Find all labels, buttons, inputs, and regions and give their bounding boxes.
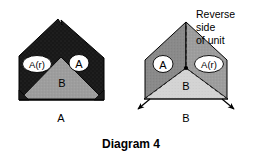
right-unit-label-ar-text: A(r) bbox=[201, 59, 217, 70]
left-unit-base-label: A bbox=[57, 112, 65, 124]
left-unit-group: A(r) A B A bbox=[19, 19, 104, 124]
left-unit-label-ar-text: A(r) bbox=[29, 59, 45, 70]
right-unit-label-b: B bbox=[182, 80, 189, 92]
right-unit-base-label: B bbox=[182, 112, 189, 124]
left-unit-label-ar: A(r) bbox=[23, 56, 52, 73]
diagram-canvas: A(r) A B A bbox=[0, 0, 266, 162]
left-unit-label-b: B bbox=[58, 77, 65, 89]
right-unit-arrow-left bbox=[138, 99, 150, 109]
figure-caption: Diagram 4 bbox=[102, 137, 160, 151]
left-unit-label-a-text: A bbox=[75, 58, 83, 70]
reverse-side-note: Reverse side of unit bbox=[196, 8, 235, 46]
left-unit-label-a: A bbox=[69, 55, 89, 72]
right-unit-label-a: A bbox=[153, 56, 173, 73]
reverse-side-note-line2: side bbox=[196, 21, 215, 33]
right-unit-apex-dot bbox=[184, 66, 188, 70]
reverse-side-note-line3: of unit bbox=[196, 34, 225, 46]
diagram-figure: A(r) A B A bbox=[0, 0, 266, 162]
right-unit-label-a-text: A bbox=[159, 59, 167, 71]
right-unit-label-ar: A(r) bbox=[195, 56, 224, 73]
right-unit-arrow-right bbox=[222, 99, 234, 109]
reverse-side-note-line1: Reverse bbox=[196, 8, 235, 20]
